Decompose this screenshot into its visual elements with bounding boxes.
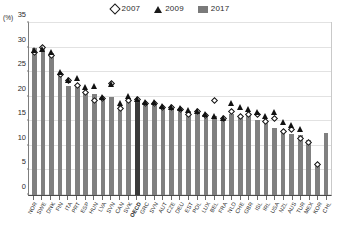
bar-2017 [229, 114, 234, 195]
bar-2017 [221, 118, 226, 195]
x-axis-label-cell: USA [271, 200, 280, 229]
marker-2009 [134, 96, 140, 102]
bar-2017 [126, 98, 131, 195]
marker-2009 [108, 81, 114, 87]
bar-2017 [306, 140, 311, 195]
chart-column [47, 23, 56, 195]
marker-2009 [39, 46, 45, 52]
bar-2017 [246, 116, 251, 195]
marker-2007 [211, 97, 218, 104]
bar-2017 [298, 135, 303, 195]
chart-column [184, 23, 193, 195]
chart-column [202, 23, 211, 195]
x-axis-label-cell: MEX [305, 200, 314, 229]
x-axis-label-cell: TUR [296, 200, 305, 229]
x-axis-label-cell: SVN [150, 200, 159, 229]
legend-label-2017: 2017 [211, 5, 230, 13]
bar-2017 [109, 97, 114, 195]
bar-2017 [289, 134, 294, 195]
chart-column [253, 23, 262, 195]
bar-2017 [178, 111, 183, 195]
legend-label-2009: 2009 [165, 5, 184, 13]
bar-swatch-icon [198, 6, 208, 13]
marker-2009 [65, 77, 71, 83]
bar-2017 [161, 108, 166, 195]
marker-2009 [262, 113, 268, 119]
chart-column [107, 23, 116, 195]
chart-container: 2007 2009 2017 (%) 05101520253035 NORSWE… [0, 0, 340, 229]
bar-2017 [169, 109, 174, 195]
chart-column [176, 23, 185, 195]
marker-2009 [194, 108, 200, 114]
marker-2009 [48, 49, 54, 55]
y-axis-tick-label: 30 [18, 34, 26, 43]
bar-2017 [101, 100, 106, 195]
triangle-marker-icon [154, 6, 162, 13]
x-axis-label-cell: OECD [133, 200, 142, 229]
chart-column [236, 23, 245, 195]
chart-column [262, 23, 271, 195]
chart-legend: 2007 2009 2017 [0, 5, 340, 13]
bar-2017 [204, 115, 209, 195]
marker-2009 [185, 107, 191, 113]
x-axis-label-cell: POL [193, 200, 202, 229]
bar-2017 [58, 75, 63, 195]
bar-2017 [186, 111, 191, 195]
x-axis-label-cell: NZL [279, 200, 288, 229]
bar-2017 [83, 93, 88, 195]
bar-2017 [212, 116, 217, 195]
diamond-marker-icon [109, 3, 120, 14]
x-axis-label-cell: GRC [141, 200, 150, 229]
marker-2009 [74, 75, 80, 81]
chart-column [193, 23, 202, 195]
y-axis-tick-label: 10 [18, 132, 26, 141]
marker-2009 [271, 109, 277, 115]
x-axis-label-cell: NOR [29, 200, 38, 229]
y-axis-tick-label: 15 [18, 108, 26, 117]
chart-column [313, 23, 322, 195]
bar-2017 [315, 165, 320, 195]
marker-2009 [159, 103, 165, 109]
marker-2009 [57, 69, 63, 75]
marker-2009 [168, 104, 174, 110]
marker-2009 [245, 106, 251, 112]
marker-2009 [280, 119, 286, 125]
x-axis-label-cell: LVA [98, 200, 107, 229]
x-axis-label-cell: KOR [314, 200, 323, 229]
bar-2017 [41, 48, 46, 195]
marker-2009 [220, 115, 226, 121]
x-axis-label-cell: FRA [219, 200, 228, 229]
chart-column [64, 23, 73, 195]
marker-2009 [99, 94, 105, 100]
y-axis-tick-label: 0 [22, 182, 26, 191]
chart-column [227, 23, 236, 195]
chart-column [56, 23, 65, 195]
x-axis-label-cell: DNK [46, 200, 55, 229]
bar-2017 [66, 86, 71, 195]
y-axis-unit-label: (%) [3, 14, 13, 21]
bar-2017 [255, 120, 260, 195]
chart-column [73, 23, 82, 195]
plot-area: 05101520253035 [28, 22, 332, 196]
bar-2017 [135, 101, 140, 195]
marker-2009 [117, 100, 123, 106]
marker-2009 [142, 99, 148, 105]
x-axis-label-cell: SWE [38, 200, 47, 229]
y-axis-tick-label: 25 [18, 59, 26, 68]
chart-column [219, 23, 228, 195]
marker-2009 [254, 109, 260, 115]
y-axis-tick-label: 5 [22, 157, 26, 166]
x-axis-label-cell: HUN [89, 200, 98, 229]
x-axis-label-cell: GBR [245, 200, 254, 229]
marker-2009 [297, 126, 303, 132]
chart-column [142, 23, 151, 195]
x-axis-label-cell: SVN [107, 200, 116, 229]
y-axis-tick-label: 35 [18, 10, 26, 19]
chart-column [244, 23, 253, 195]
bar-2017 [238, 116, 243, 195]
x-axis-label-cell: ESP [81, 200, 90, 229]
chart-column [279, 23, 288, 195]
marker-2009 [91, 83, 97, 89]
x-axis-label-cell: CHL [322, 200, 331, 229]
marker-2009 [288, 122, 294, 128]
